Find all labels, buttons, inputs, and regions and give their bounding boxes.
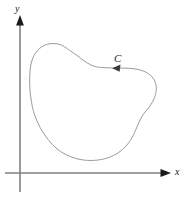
closed-curve-c	[30, 44, 157, 161]
figure-container: y x C	[0, 0, 188, 200]
y-axis-label: y	[15, 4, 19, 14]
x-axis-label: x	[175, 167, 179, 177]
figure-canvas	[0, 0, 188, 200]
x-axis-arrowhead	[161, 169, 172, 177]
curve-direction-arrowhead	[112, 65, 120, 72]
curve-label-c: C	[114, 53, 121, 64]
y-axis-arrowhead	[16, 15, 24, 26]
